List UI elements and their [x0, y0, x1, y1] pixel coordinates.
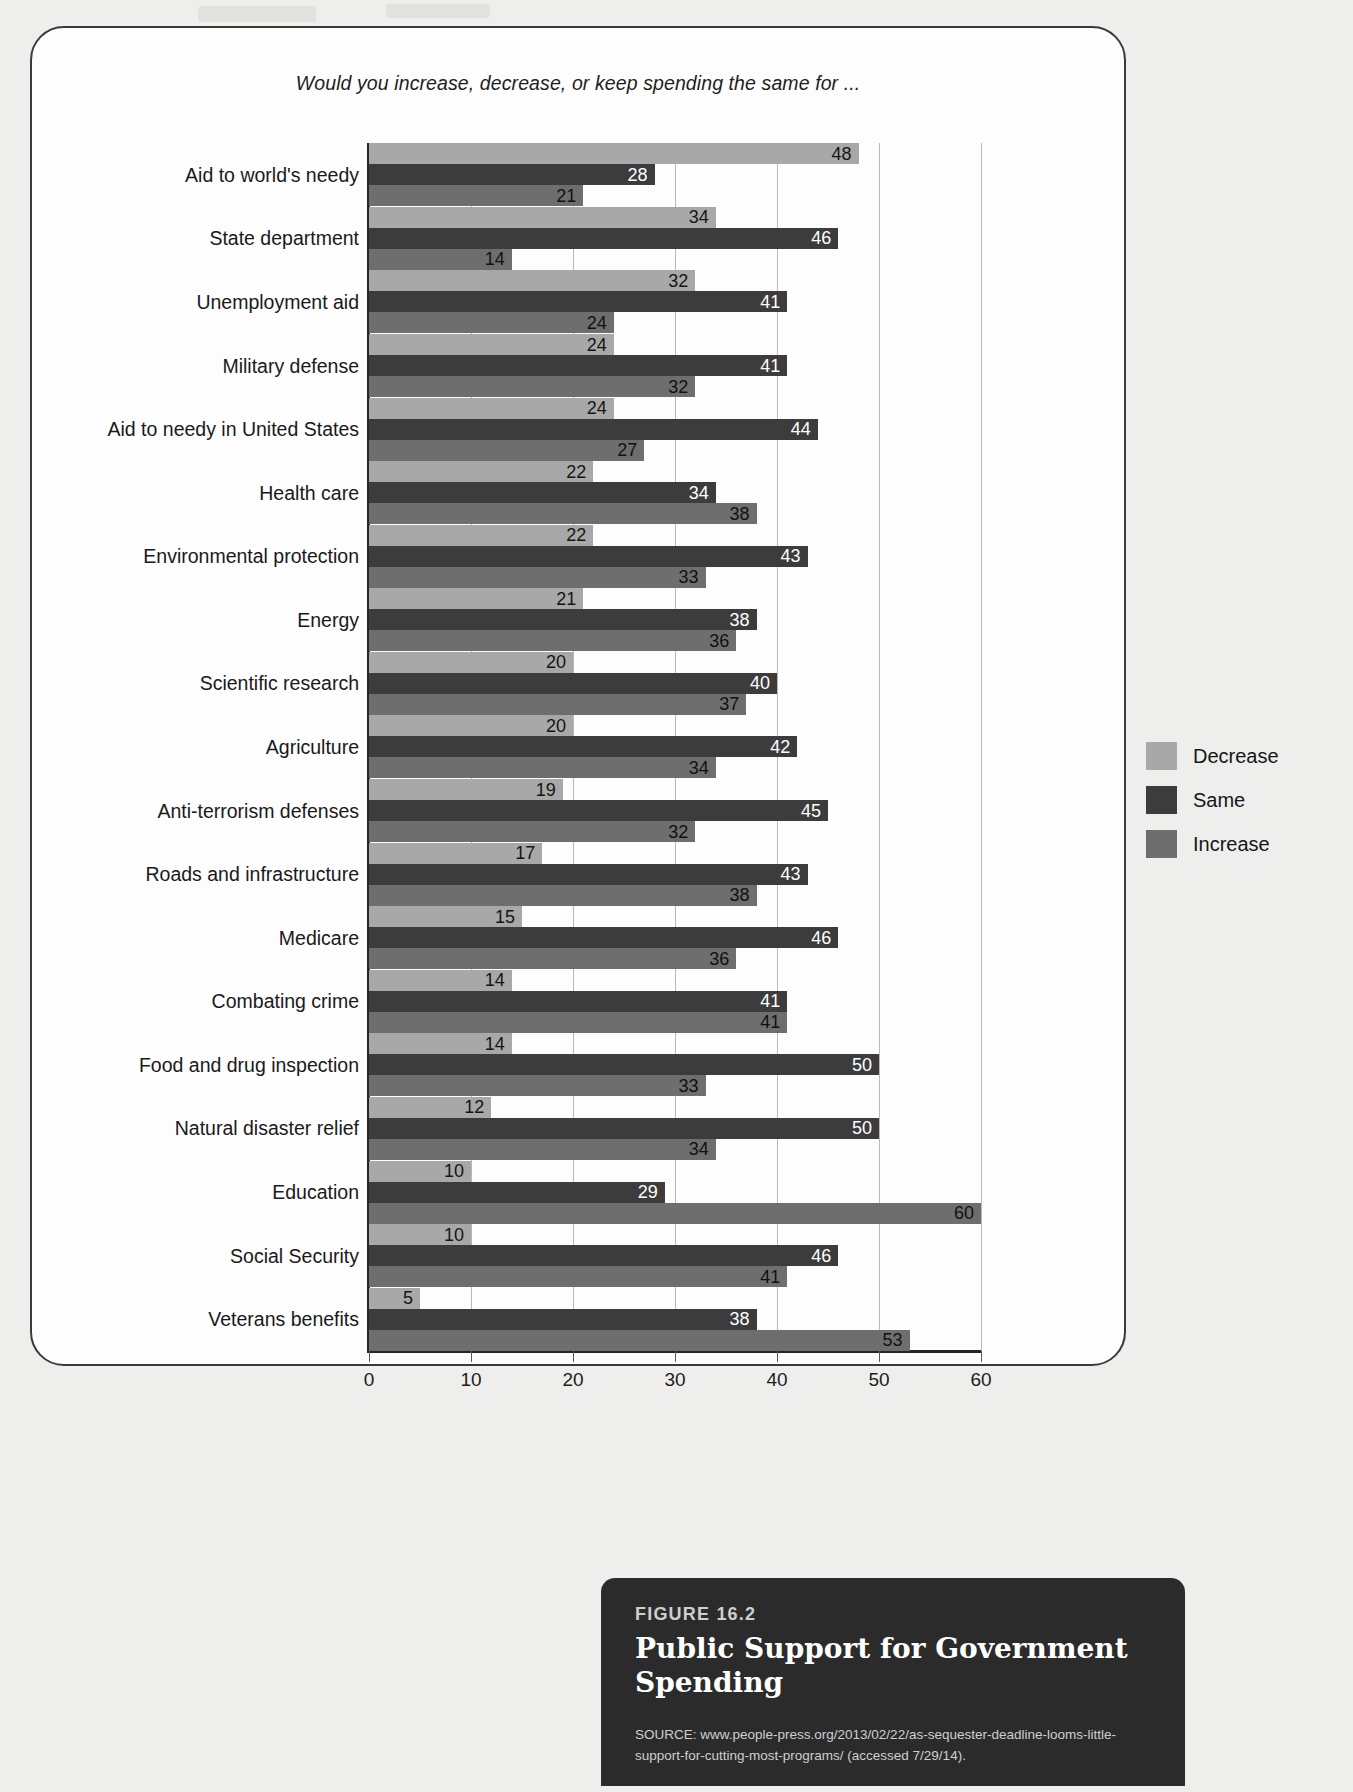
- bar-increase: 33: [369, 1075, 706, 1096]
- bar-value-label: 42: [770, 738, 790, 756]
- legend-label: Decrease: [1193, 745, 1279, 768]
- category-label: Aid to needy in United States: [108, 418, 360, 441]
- bar-value-label: 45: [801, 802, 821, 820]
- bar-decrease: 22: [369, 525, 593, 546]
- category-label: Veterans benefits: [208, 1308, 359, 1331]
- bar-value-label: 38: [730, 886, 750, 904]
- bar-increase: 36: [369, 630, 736, 651]
- bar-value-label: 24: [587, 336, 607, 354]
- bar-value-label: 46: [811, 929, 831, 947]
- bar-decrease: 19: [369, 779, 563, 800]
- legend-swatch-increase: [1146, 830, 1177, 858]
- axis-tick: [675, 1351, 676, 1362]
- bar-same: 50: [369, 1054, 879, 1075]
- bar-value-label: 24: [587, 399, 607, 417]
- bar-decrease: 15: [369, 906, 522, 927]
- bar-decrease: 24: [369, 398, 614, 419]
- bar-increase: 60: [369, 1203, 981, 1224]
- bar-group: Military defense244132: [369, 334, 981, 398]
- category-label: Unemployment aid: [196, 290, 359, 313]
- bar-group: Anti-terrorism defenses194532: [369, 779, 981, 843]
- bar-value-label: 21: [556, 187, 576, 205]
- bar-value-label: 10: [444, 1162, 464, 1180]
- bar-decrease: 20: [369, 715, 573, 736]
- bar-value-label: 41: [760, 293, 780, 311]
- bar-value-label: 41: [760, 1013, 780, 1031]
- x-tick-label: 40: [766, 1369, 787, 1391]
- bar-increase: 34: [369, 757, 716, 778]
- bar-group: Aid to needy in United States244427: [369, 397, 981, 461]
- bar-value-label: 33: [679, 568, 699, 586]
- legend-label: Increase: [1193, 833, 1270, 856]
- bar-group: Food and drug inspection145033: [369, 1033, 981, 1097]
- bar-value-label: 14: [485, 250, 505, 268]
- bar-same: 38: [369, 1309, 757, 1330]
- legend-item-increase: Increase: [1146, 830, 1279, 858]
- figure-caption-card: FIGURE 16.2 Public Support for Governmen…: [601, 1578, 1185, 1786]
- bar-value-label: 43: [781, 547, 801, 565]
- bar-value-label: 24: [587, 314, 607, 332]
- bar-decrease: 48: [369, 143, 859, 164]
- bar-value-label: 32: [668, 823, 688, 841]
- bar-value-label: 48: [832, 145, 852, 163]
- bar-value-label: 53: [883, 1331, 903, 1349]
- category-label: Social Security: [230, 1244, 359, 1267]
- category-label: Medicare: [279, 926, 359, 949]
- bar-same: 29: [369, 1182, 665, 1203]
- bar-group: Social Security104641: [369, 1224, 981, 1288]
- category-label: Military defense: [222, 354, 359, 377]
- chart-question-title: Would you increase, decrease, or keep sp…: [32, 72, 1124, 95]
- bar-same: 43: [369, 546, 808, 567]
- category-label: Education: [272, 1181, 359, 1204]
- axis-tick: [369, 1351, 370, 1362]
- bar-increase: 36: [369, 948, 736, 969]
- bar-increase: 38: [369, 503, 757, 524]
- bar-group: Combating crime144141: [369, 970, 981, 1034]
- bar-value-label: 14: [485, 971, 505, 989]
- bar-value-label: 44: [791, 420, 811, 438]
- bar-increase: 33: [369, 567, 706, 588]
- bar-same: 43: [369, 864, 808, 885]
- bar-increase: 32: [369, 376, 695, 397]
- bar-decrease: 24: [369, 334, 614, 355]
- bar-value-label: 38: [730, 1310, 750, 1328]
- legend-swatch-same: [1146, 786, 1177, 814]
- bar-decrease: 20: [369, 652, 573, 673]
- bar-same: 41: [369, 991, 787, 1012]
- bar-value-label: 32: [668, 378, 688, 396]
- bar-decrease: 10: [369, 1161, 471, 1182]
- axis-tick: [777, 1351, 778, 1362]
- x-tick-label: 30: [664, 1369, 685, 1391]
- bar-decrease: 32: [369, 270, 695, 291]
- bar-same: 46: [369, 1245, 838, 1266]
- x-tick-label: 60: [970, 1369, 991, 1391]
- bar-increase: 37: [369, 694, 746, 715]
- bar-value-label: 21: [556, 590, 576, 608]
- bar-increase: 21: [369, 185, 583, 206]
- chart-legend: DecreaseSameIncrease: [1146, 742, 1279, 874]
- axis-tick: [981, 1351, 982, 1362]
- bar-decrease: 12: [369, 1097, 491, 1118]
- x-tick-label: 0: [364, 1369, 375, 1391]
- bar-group: Natural disaster relief125034: [369, 1097, 981, 1161]
- category-label: Energy: [297, 608, 359, 631]
- axis-tick: [573, 1351, 574, 1362]
- bar-same: 41: [369, 355, 787, 376]
- bar-value-label: 34: [689, 1140, 709, 1158]
- legend-label: Same: [1193, 789, 1245, 812]
- bar-increase: 38: [369, 885, 757, 906]
- bar-value-label: 41: [760, 1268, 780, 1286]
- bar-group: State department344614: [369, 207, 981, 271]
- category-label: Food and drug inspection: [139, 1053, 359, 1076]
- bar-value-label: 46: [811, 1247, 831, 1265]
- bar-value-label: 38: [730, 505, 750, 523]
- category-label: Roads and infrastructure: [145, 863, 359, 886]
- figure-page: Would you increase, decrease, or keep sp…: [30, 26, 1126, 1366]
- bar-value-label: 41: [760, 992, 780, 1010]
- scan-artifact: [198, 6, 316, 22]
- bar-increase: 41: [369, 1266, 787, 1287]
- bar-increase: 41: [369, 1012, 787, 1033]
- bar-increase: 14: [369, 249, 512, 270]
- category-label: Aid to world's needy: [185, 163, 359, 186]
- bar-increase: 27: [369, 440, 644, 461]
